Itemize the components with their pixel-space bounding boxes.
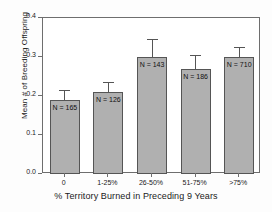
error-bar-cap [103, 82, 114, 83]
error-bar-1 [102, 82, 114, 92]
x-axis-title: % Territory Burned in Preceding 9 Years [0, 191, 272, 201]
error-bar-3 [190, 55, 202, 69]
bar-1 [93, 92, 123, 174]
x-tick-mark [238, 173, 239, 177]
y-tick-label: 0.4 [26, 12, 36, 19]
bar-sample-size-label-3: N = 186 [166, 73, 226, 80]
bar-3 [181, 69, 211, 174]
x-tick-mark [195, 173, 196, 177]
x-tick-mark [107, 173, 108, 177]
x-tick-label: >75% [204, 179, 272, 186]
bar-chart-figure: Mean # of Breeding Offspring 0.00.10.20.… [0, 0, 272, 212]
y-tick-label: 0.2 [26, 90, 36, 97]
y-tick-label: 0.0 [26, 168, 36, 175]
y-tick-mark [38, 173, 42, 174]
error-bar-4 [233, 47, 245, 57]
y-tick-label: 0.3 [26, 51, 36, 58]
error-bar-cap [190, 55, 201, 56]
y-axis-title: Mean # of Breeding Offspring [20, 0, 29, 146]
bar-sample-size-label-1: N = 126 [78, 96, 138, 103]
error-bar-cap [59, 90, 70, 91]
plot-area: N = 165N = 126N = 143N = 186N = 710 [42, 17, 260, 173]
bar-2 [137, 57, 167, 174]
x-tick-mark [151, 173, 152, 177]
x-tick-mark [64, 173, 65, 177]
error-bar-2 [146, 39, 158, 57]
error-bar-cap [234, 47, 245, 48]
bar-sample-size-label-4: N = 710 [209, 61, 269, 68]
error-bar-stem [152, 39, 153, 57]
error-bar-stem [108, 82, 109, 92]
bar-4 [224, 57, 254, 174]
y-tick-label: 0.1 [26, 129, 36, 136]
error-bar-0 [59, 90, 71, 100]
error-bar-stem [195, 55, 196, 69]
error-bar-cap [147, 39, 158, 40]
bar-sample-size-label-0: N = 165 [35, 104, 95, 111]
error-bar-stem [239, 47, 240, 57]
bar-sample-size-label-2: N = 143 [122, 61, 182, 68]
bar-0 [50, 100, 80, 174]
error-bar-stem [64, 90, 65, 100]
